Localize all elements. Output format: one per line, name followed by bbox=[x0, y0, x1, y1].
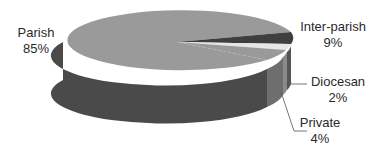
label-interparish-name: Inter-parish bbox=[293, 19, 373, 35]
label-diocesan-name: Diocesan bbox=[305, 74, 371, 90]
label-private-pct: 4% bbox=[295, 131, 345, 147]
slice-side-private bbox=[267, 57, 283, 107]
label-diocesan: Diocesan 2% bbox=[305, 74, 371, 106]
label-parish-name: Parish bbox=[14, 25, 58, 41]
label-parish: Parish 85% bbox=[14, 25, 58, 57]
label-private-name: Private bbox=[295, 115, 345, 131]
label-diocesan-pct: 2% bbox=[305, 90, 371, 106]
label-interparish-pct: 9% bbox=[293, 35, 373, 51]
label-parish-pct: 85% bbox=[14, 41, 58, 57]
pie-top bbox=[67, 10, 293, 70]
label-private: Private 4% bbox=[295, 115, 345, 147]
slice-side-interparish bbox=[287, 42, 291, 90]
label-interparish: Inter-parish 9% bbox=[293, 19, 373, 51]
slice-side-diocesan bbox=[283, 52, 287, 95]
